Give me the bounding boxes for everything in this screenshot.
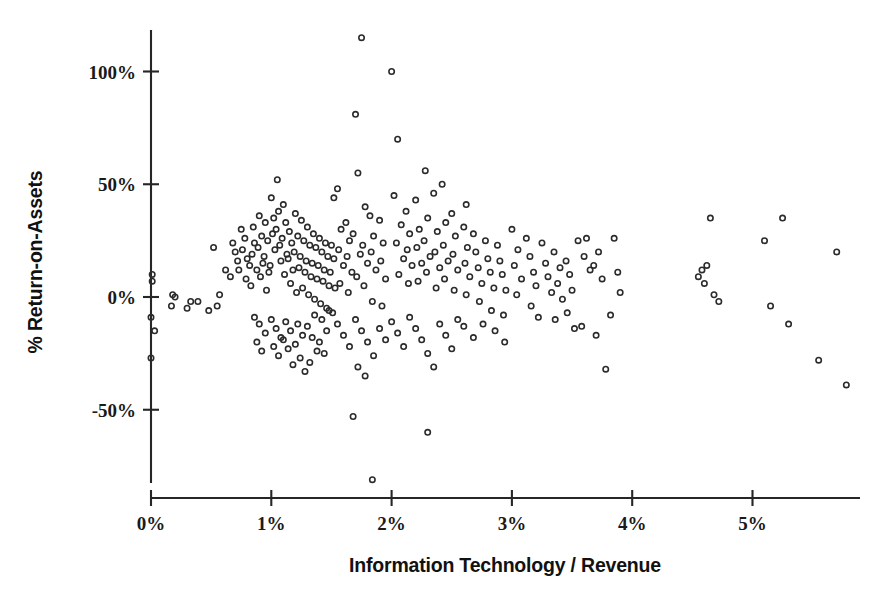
x-tick-label: 5%	[738, 513, 767, 534]
x-tick-label: 3%	[498, 513, 527, 534]
y-axis-title: % Return-on-Assets	[24, 170, 46, 353]
x-tick-label: 1%	[257, 513, 286, 534]
x-tick-label: 2%	[377, 513, 406, 534]
y-tick-label: 50%	[98, 174, 136, 195]
y-tick-label: 100%	[89, 62, 137, 83]
y-tick-label: 0%	[108, 287, 137, 308]
plot-canvas: 100%50%0%-50% 0%1%2%3%4%5% Information T…	[0, 0, 894, 605]
x-tick-label: 4%	[618, 513, 647, 534]
x-axis-title: Information Technology / Revenue	[349, 554, 661, 576]
x-tick-label: 0%	[137, 513, 166, 534]
scatter-plot-figure: 100%50%0%-50% 0%1%2%3%4%5% Information T…	[0, 0, 894, 605]
y-tick-label: -50%	[92, 400, 136, 421]
